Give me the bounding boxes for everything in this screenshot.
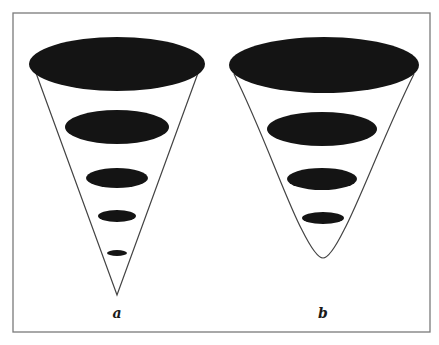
disc-ellipse-2 <box>65 110 169 144</box>
cone-b-outline <box>234 74 414 258</box>
disc-ellipse-3 <box>86 168 148 188</box>
disc-ellipse-5 <box>107 250 127 256</box>
disc-ellipse-4 <box>98 210 136 222</box>
funnel-diagram: a b <box>0 0 439 345</box>
cone-b-ellipses <box>229 37 419 224</box>
panel-a-label: a <box>112 305 121 321</box>
panel-a-straight-cone: a <box>29 37 205 321</box>
disc-ellipse-1 <box>29 37 205 91</box>
disc-ellipse-4 <box>302 212 344 224</box>
disc-ellipse-3 <box>287 168 357 190</box>
cone-a-ellipses <box>29 37 205 256</box>
panel-b-rounded-cone: b <box>229 37 419 321</box>
disc-ellipse-1 <box>229 37 419 93</box>
panel-b-label: b <box>318 305 328 321</box>
disc-ellipse-2 <box>267 112 377 146</box>
